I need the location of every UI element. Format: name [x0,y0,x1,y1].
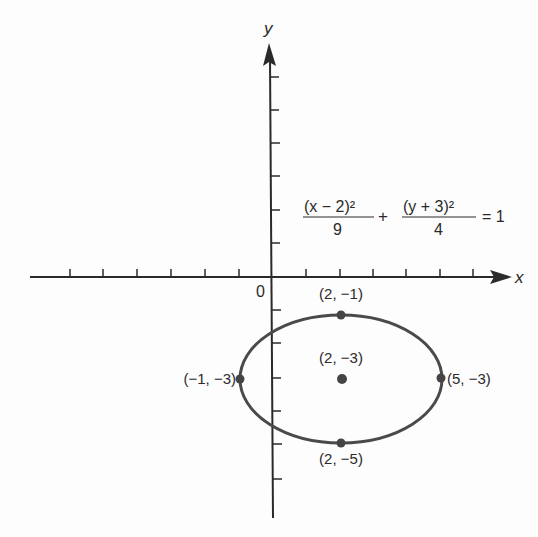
point-label-left-vertex: (−1, −3) [183,370,236,387]
x-axis-label: x [514,268,524,287]
ellipse-equation: (x − 2)² 9 + (y + 3)² 4 = 1 [303,198,505,238]
point-bottom-vertex [337,439,346,448]
point-center [337,374,347,384]
point-top-vertex [337,311,346,320]
equation-plus: + [378,207,388,226]
y-axis [270,58,273,518]
equation-term2-denominator: 4 [434,221,443,238]
equation-term1-numerator: (x − 2)² [304,198,356,215]
point-label-bottom-vertex: (2, −5) [319,450,363,467]
point-left-vertex [236,375,245,384]
ellipse-figure: x y 0 (x − 2)² 9 + (y + 3)² 4 = 1 (2, −1… [0,0,538,537]
point-label-top-vertex: (2, −1) [319,285,363,302]
point-label-right-vertex: (5, −3) [447,370,491,387]
origin-label: 0 [256,283,265,300]
equation-equals-one: = 1 [482,208,505,225]
point-label-center: (2, −3) [319,349,363,366]
y-axis-label: y [263,19,274,38]
point-right-vertex [437,374,446,383]
equation-term1-denominator: 9 [333,221,342,238]
equation-term2-numerator: (y + 3)² [403,198,455,215]
coordinate-plane: x y 0 (x − 2)² 9 + (y + 3)² 4 = 1 (2, −1… [0,0,538,537]
